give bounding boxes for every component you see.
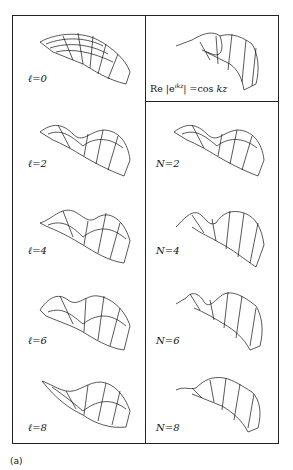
exponent-ikz: ikz (175, 82, 184, 89)
header-divider (145, 101, 279, 102)
panel-label-n4: N=4 (156, 245, 180, 256)
panel-label-l8: ℓ=8 (28, 422, 47, 433)
surface-plot-n6 (172, 288, 272, 353)
surface-plot-l2 (38, 120, 138, 180)
panel-label-n6: N=6 (156, 335, 180, 346)
surface-plot-l0 (38, 30, 138, 90)
panel-label-l0: ℓ=0 (28, 73, 47, 84)
figure-caption: (a) (10, 456, 23, 466)
surface-plot-n4 (172, 205, 272, 270)
panel-label-n8: N=8 (156, 422, 180, 433)
panel-label-l2: ℓ=2 (28, 158, 47, 169)
column-divider (145, 15, 146, 444)
panel-label-l4: ℓ=4 (28, 245, 47, 256)
surface-plot-l8 (38, 375, 138, 440)
surface-plot-n8 (172, 372, 272, 437)
surface-plot-l6 (38, 290, 138, 355)
panel-label-cos-kz: Re |eikz| =cos kz (150, 82, 227, 94)
surface-plot-n2 (172, 120, 272, 180)
panel-label-n2: N=2 (156, 158, 180, 169)
surface-plot-l4 (38, 205, 138, 270)
panel-label-l6: ℓ=6 (28, 335, 47, 346)
kz-term: kz (216, 83, 227, 94)
